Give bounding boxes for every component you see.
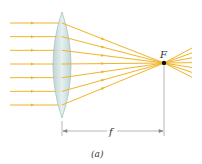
diverging-rays — [164, 48, 192, 77]
lens-diagram: F f (a) — [0, 0, 202, 164]
ray-arrowhead — [31, 22, 34, 25]
focal-length-label: f — [108, 126, 115, 137]
converging-ray — [62, 63, 164, 91]
arrowhead-left — [63, 130, 67, 133]
ray-arrowhead — [31, 35, 34, 38]
ray-arrowhead — [101, 37, 105, 40]
converging-ray — [62, 63, 164, 64]
diverging-ray — [164, 53, 192, 63]
figure-caption: (a) — [91, 149, 104, 159]
converging-ray — [62, 63, 164, 78]
focal-point-label: F — [159, 49, 168, 60]
converging-ray — [62, 37, 164, 63]
ray-arrowhead — [31, 76, 34, 79]
converging-ray — [62, 63, 164, 105]
ray-arrowhead — [101, 79, 105, 82]
ray-arrowhead — [31, 90, 34, 93]
arrowhead-right — [159, 130, 163, 133]
focal-length-dimension — [62, 66, 164, 136]
ray-arrowhead — [31, 104, 34, 107]
converging-rays — [62, 23, 164, 105]
ray-arrowhead — [31, 49, 34, 52]
ray-arrowhead — [101, 62, 105, 65]
diverging-ray — [164, 63, 192, 72]
ray-arrowhead — [31, 63, 34, 66]
focal-point — [162, 61, 166, 65]
